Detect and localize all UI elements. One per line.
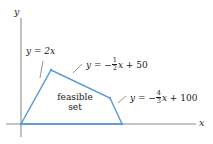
eq2-variable: x bbox=[118, 60, 123, 70]
eq3-prefix: y = − bbox=[130, 93, 156, 103]
eq3-denominator: 3 bbox=[156, 98, 161, 105]
eq3-variable: x bbox=[162, 93, 167, 103]
x-axis-label: x bbox=[199, 118, 204, 128]
vertex-apex bbox=[50, 69, 52, 71]
eq2-fraction: 12 bbox=[112, 57, 117, 71]
constraint-label-neg-four-thirds-x-plus-100: y = −43x + 100 bbox=[130, 90, 197, 104]
feasible-set-label-line1: feasible bbox=[57, 92, 93, 102]
figure-canvas bbox=[0, 0, 213, 144]
eq3-fraction: 43 bbox=[156, 90, 161, 104]
eq2-suffix: + 50 bbox=[126, 60, 148, 70]
feasible-set-label-line2: set bbox=[68, 102, 82, 112]
leader-line-y-equals-2x bbox=[40, 61, 43, 78]
eq2-denominator: 2 bbox=[112, 65, 117, 72]
constraint-label-y-equals-2x: y = 2x bbox=[26, 47, 55, 56]
eq3-suffix: + 100 bbox=[170, 93, 198, 103]
leader-line-four-thirds-x-100 bbox=[118, 96, 126, 103]
leader-line-half-x-50 bbox=[73, 64, 82, 73]
vertex-middle-right bbox=[109, 97, 111, 99]
figure-container: y x y = 2x y = −12x + 50 y = −43x + 100 … bbox=[0, 0, 213, 144]
constraint-label-neg-half-x-plus-50: y = −12x + 50 bbox=[86, 57, 148, 71]
vertex-origin bbox=[20, 123, 22, 125]
feasible-set-label: feasible set bbox=[44, 92, 106, 113]
eq2-prefix: y = − bbox=[86, 60, 112, 70]
vertex-x-intercept bbox=[121, 123, 123, 125]
y-axis-label: y bbox=[14, 7, 19, 17]
